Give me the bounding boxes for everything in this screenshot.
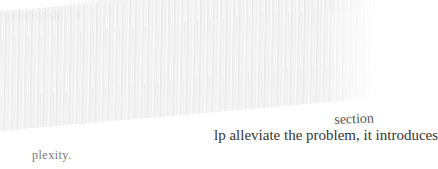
occlusion-band bbox=[0, 0, 380, 132]
text-fragment-alleviate: lp alleviate the problem, it introduces bbox=[214, 126, 438, 144]
text-fragment-complexity: plexity. bbox=[32, 146, 72, 164]
